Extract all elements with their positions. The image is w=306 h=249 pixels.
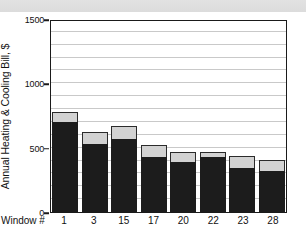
bar-segment-lower[interactable] bbox=[229, 168, 255, 212]
bar-segment-upper[interactable] bbox=[141, 145, 167, 157]
x-axis-tick-label: 17 bbox=[141, 215, 167, 226]
plot-area bbox=[50, 20, 287, 213]
x-axis-tick-label: 22 bbox=[200, 215, 226, 226]
bar-stack[interactable] bbox=[111, 126, 137, 212]
bar-segment-upper[interactable] bbox=[111, 126, 137, 139]
bar-stack[interactable] bbox=[229, 156, 255, 212]
bar-segment-upper[interactable] bbox=[229, 156, 255, 168]
y-axis-tick-label: 1000 bbox=[25, 79, 44, 89]
bar-series-group bbox=[51, 21, 286, 212]
bar-stack[interactable] bbox=[141, 145, 167, 212]
y-axis-tick-label: 500 bbox=[30, 144, 44, 154]
x-axis-tick-label: 28 bbox=[260, 215, 286, 226]
bar-stack[interactable] bbox=[200, 152, 226, 212]
bar-segment-lower[interactable] bbox=[170, 162, 196, 212]
bar-segment-lower[interactable] bbox=[259, 171, 285, 212]
bar-segment-upper[interactable] bbox=[52, 112, 78, 122]
bar-segment-lower[interactable] bbox=[141, 157, 167, 212]
bar-segment-lower[interactable] bbox=[111, 139, 137, 212]
y-axis-tick-mark bbox=[44, 212, 49, 214]
bar-stack[interactable] bbox=[82, 132, 108, 212]
y-axis-ticks: 050010001500 bbox=[0, 20, 48, 213]
y-axis-tick-mark bbox=[44, 148, 49, 150]
x-axis-tick-label: 1 bbox=[51, 215, 77, 226]
x-axis-tick-label: 3 bbox=[81, 215, 107, 226]
bar-segment-upper[interactable] bbox=[170, 152, 196, 162]
x-axis-ticks: 13151720222328 bbox=[50, 215, 287, 231]
x-axis-tick-label: 20 bbox=[170, 215, 196, 226]
x-axis-tick-label: 15 bbox=[111, 215, 137, 226]
y-axis-tick-label: 1500 bbox=[25, 15, 44, 25]
chart-figure: Annual Heating & Cooling Bill, $ 0500100… bbox=[0, 12, 306, 249]
bar-segment-lower[interactable] bbox=[52, 122, 78, 212]
x-axis-title: Window # bbox=[0, 215, 52, 226]
bar-segment-lower[interactable] bbox=[82, 144, 108, 212]
bar-segment-upper[interactable] bbox=[82, 132, 108, 144]
bar-stack[interactable] bbox=[52, 112, 78, 212]
y-axis-tick-mark bbox=[44, 84, 49, 86]
bar-segment-upper[interactable] bbox=[259, 160, 285, 172]
window-title-banner bbox=[0, 0, 306, 12]
bar-stack[interactable] bbox=[170, 152, 196, 212]
x-axis-tick-label: 23 bbox=[230, 215, 256, 226]
bar-stack[interactable] bbox=[259, 160, 285, 212]
bar-segment-lower[interactable] bbox=[200, 157, 226, 212]
y-axis-tick-mark bbox=[44, 19, 49, 21]
